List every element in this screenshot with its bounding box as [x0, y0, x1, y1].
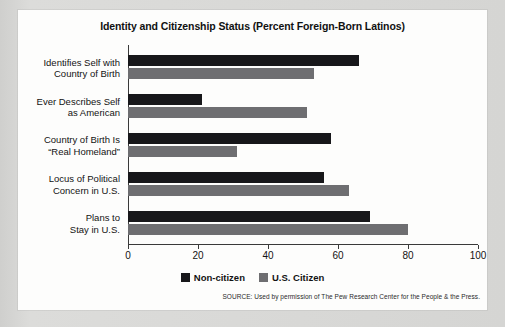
x-tick-mark [128, 245, 129, 249]
bar-group [128, 131, 478, 161]
bar-non-citizen [128, 211, 370, 222]
category-label-line: Ever Describes Self [37, 96, 120, 108]
legend-label: U.S. Citizen [272, 272, 324, 283]
category-label-line: Concern in U.S. [53, 185, 120, 197]
x-tick-mark [478, 245, 479, 249]
bar-non-citizen [128, 94, 202, 105]
legend-swatch-icon [181, 273, 190, 282]
category-label: Identifies Self withCountry of Birth [24, 53, 124, 83]
x-tick-label: 40 [262, 250, 273, 261]
plot-area [128, 45, 478, 245]
bar-u-s-citizen [128, 107, 307, 118]
category-label: Ever Describes Selfas American [24, 92, 124, 122]
x-tick-mark [338, 245, 339, 249]
category-label-line: as American [68, 107, 120, 119]
bar-u-s-citizen [128, 185, 349, 196]
bar-group [128, 53, 478, 83]
bar-u-s-citizen [128, 146, 237, 157]
category-label: Country of Birth Is“Real Homeland” [24, 131, 124, 161]
chart-legend: Non-citizenU.S. Citizen [18, 272, 487, 283]
legend-label: Non-citizen [194, 272, 245, 283]
category-label-line: Identifies Self with [43, 57, 120, 69]
x-tick-label: 100 [470, 250, 487, 261]
x-tick-label: 60 [332, 250, 343, 261]
x-tick-mark [198, 245, 199, 249]
x-tick-mark [408, 245, 409, 249]
category-label-line: Locus of Political [49, 173, 120, 185]
category-label-line: Plans to [86, 212, 120, 224]
source-note: SOURCE: Used by permission of The Pew Re… [18, 293, 480, 300]
x-tick-label: 80 [402, 250, 413, 261]
category-axis-labels: Identifies Self withCountry of BirthEver… [24, 45, 124, 245]
bar-non-citizen [128, 172, 324, 183]
x-tick-label: 0 [125, 250, 131, 261]
x-tick-label: 20 [192, 250, 203, 261]
bar-group [128, 170, 478, 200]
bar-non-citizen [128, 55, 359, 66]
bar-rows [128, 45, 478, 245]
legend-item: Non-citizen [181, 272, 245, 283]
x-tick-mark [268, 245, 269, 249]
chart-panel: Identity and Citizenship Status (Percent… [18, 10, 487, 310]
bar-u-s-citizen [128, 224, 408, 235]
category-label-line: Stay in U.S. [70, 224, 120, 236]
legend-swatch-icon [259, 273, 268, 282]
category-label: Plans toStay in U.S. [24, 209, 124, 239]
bar-u-s-citizen [128, 68, 314, 79]
category-label-line: Country of Birth Is [44, 134, 120, 146]
category-label: Locus of PoliticalConcern in U.S. [24, 170, 124, 200]
legend-item: U.S. Citizen [259, 272, 324, 283]
chart-title: Identity and Citizenship Status (Percent… [18, 20, 487, 32]
bar-group [128, 209, 478, 239]
category-label-line: Country of Birth [54, 68, 120, 80]
bar-non-citizen [128, 133, 331, 144]
bar-group [128, 92, 478, 122]
x-axis-ticks: 020406080100 [128, 245, 478, 267]
category-label-line: “Real Homeland” [48, 146, 120, 158]
